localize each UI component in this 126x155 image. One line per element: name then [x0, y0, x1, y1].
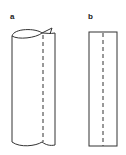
- panel-b-rectangle: [89, 32, 117, 146]
- diagram-canvas: [0, 0, 126, 155]
- panel-a-cylinder: [12, 28, 55, 146]
